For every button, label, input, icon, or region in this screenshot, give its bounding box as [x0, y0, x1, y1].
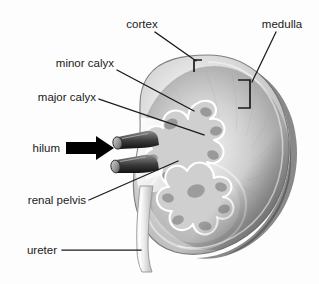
label-minor-calyx: minor calyx	[56, 57, 114, 69]
label-hilum: hilum	[33, 142, 60, 154]
kidney-diagram-page: cortex medulla minor calyx major calyx h…	[0, 0, 319, 284]
leader-cortex	[155, 32, 196, 61]
label-medulla: medulla	[262, 18, 303, 30]
label-renal-pelvis: renal pelvis	[28, 194, 86, 206]
hilum-arrow-icon	[66, 136, 114, 160]
leader-medulla	[252, 32, 276, 82]
renal-vein-tube	[110, 155, 159, 174]
kidney-anatomical-figure: cortex medulla minor calyx major calyx h…	[0, 0, 319, 284]
label-cortex: cortex	[126, 18, 158, 30]
label-major-calyx: major calyx	[38, 91, 96, 103]
label-ureter: ureter	[27, 244, 57, 256]
